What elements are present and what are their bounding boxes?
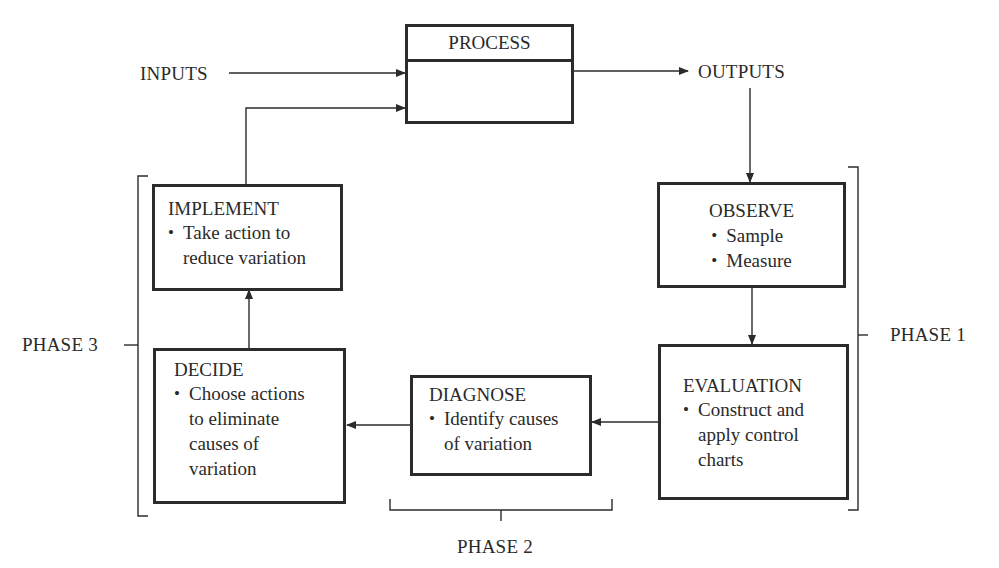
decide-title: DECIDE <box>174 359 343 381</box>
decide-item-cont: variation <box>174 456 343 481</box>
decide-item-cont: causes of <box>174 431 343 456</box>
diagnose-item: Identify causes <box>429 406 589 431</box>
evaluation-box: EVALUATION Construct and apply control c… <box>658 344 849 500</box>
process-title: PROCESS <box>408 27 571 62</box>
phase1-label: PHASE 1 <box>890 324 966 346</box>
evaluation-item-cont: apply control <box>683 422 846 447</box>
evaluation-item: Construct and <box>683 397 846 422</box>
phase2-label: PHASE 2 <box>457 536 533 558</box>
evaluation-title: EVALUATION <box>683 375 846 397</box>
outputs-label: OUTPUTS <box>698 61 785 83</box>
diagnose-title: DIAGNOSE <box>429 384 589 406</box>
implement-box: IMPLEMENT Take action to reduce variatio… <box>152 184 343 291</box>
decide-item: Choose actions <box>174 381 343 406</box>
phase1-bracket <box>848 167 858 510</box>
observe-item: Measure <box>711 248 791 273</box>
inputs-label: INPUTS <box>140 63 208 85</box>
decide-box: DECIDE Choose actions to eliminate cause… <box>153 348 346 504</box>
diagnose-item-cont: of variation <box>429 431 589 456</box>
process-box: PROCESS <box>405 24 574 124</box>
diagnose-box: DIAGNOSE Identify causes of variation <box>410 375 592 476</box>
decide-item-cont: to eliminate <box>174 406 343 431</box>
implement-item-cont: reduce variation <box>168 245 340 270</box>
observe-title: OBSERVE <box>660 199 843 223</box>
evaluation-item-cont: charts <box>683 447 846 472</box>
feedback-arrow <box>246 108 405 184</box>
phase2-bracket <box>390 499 612 510</box>
phase3-bracket <box>138 176 148 516</box>
diagram-canvas: PROCESS INPUTS OUTPUTS OBSERVE Sample Me… <box>0 0 999 568</box>
observe-box: OBSERVE Sample Measure <box>657 182 846 288</box>
observe-item: Sample <box>711 223 791 248</box>
implement-item: Take action to <box>168 220 340 245</box>
implement-title: IMPLEMENT <box>168 198 340 220</box>
phase3-label: PHASE 3 <box>22 334 98 356</box>
